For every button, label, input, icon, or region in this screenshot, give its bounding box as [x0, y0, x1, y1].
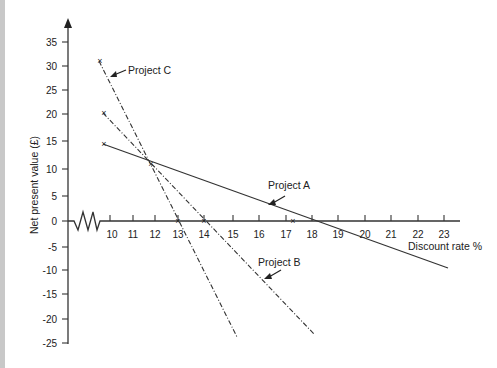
svg-text:17: 17 — [280, 229, 292, 240]
data-point-markers: × × × × × × × — [97, 56, 295, 226]
label-project-c: Project C — [128, 64, 172, 76]
x-ticks — [110, 215, 444, 221]
svg-text:21: 21 — [385, 229, 397, 240]
svg-text:×: × — [290, 216, 295, 226]
svg-text:22: 22 — [412, 229, 424, 240]
svg-text:12: 12 — [149, 229, 161, 240]
x-tick-labels: 10 11 12 13 14 15 16 17 18 19 20 21 22 2… — [106, 229, 450, 240]
svg-text:18: 18 — [306, 229, 318, 240]
svg-text:25: 25 — [46, 85, 58, 96]
x-axis-label: Discount rate % — [408, 240, 482, 252]
svg-text:×: × — [97, 56, 102, 66]
y-axis-arrow-icon — [64, 18, 72, 28]
series-project-b — [103, 113, 314, 334]
svg-text:30: 30 — [46, 61, 58, 72]
svg-text:0: 0 — [51, 216, 57, 227]
svg-text:19: 19 — [332, 229, 344, 240]
svg-text:×: × — [148, 159, 153, 169]
svg-text:35: 35 — [46, 37, 58, 48]
svg-text:13: 13 — [172, 229, 184, 240]
series-project-c — [99, 61, 237, 337]
svg-text:-10: -10 — [43, 265, 58, 276]
svg-text:10: 10 — [46, 164, 58, 175]
y-ticks — [62, 42, 68, 343]
npv-chart: 35 30 25 20 15 10 5 0 -5 -10 -15 -20 -25… — [0, 0, 497, 368]
svg-text:20: 20 — [46, 109, 58, 120]
svg-text:11: 11 — [128, 229, 139, 240]
label-project-a: Project A — [268, 179, 310, 191]
svg-text:×: × — [175, 216, 180, 226]
svg-text:15: 15 — [227, 229, 239, 240]
label-project-b: Project B — [258, 256, 301, 268]
svg-text:-25: -25 — [43, 338, 58, 349]
svg-text:16: 16 — [253, 229, 265, 240]
y-tick-labels: 35 30 25 20 15 10 5 0 -5 -10 -15 -20 -25 — [43, 37, 58, 349]
svg-text:×: × — [201, 216, 206, 226]
series-project-a — [103, 144, 448, 268]
svg-text:5: 5 — [51, 191, 57, 202]
svg-text:10: 10 — [106, 229, 118, 240]
svg-text:×: × — [101, 139, 106, 149]
svg-text:-20: -20 — [43, 314, 58, 325]
svg-text:14: 14 — [198, 229, 210, 240]
svg-text:-5: -5 — [48, 242, 57, 253]
svg-text:23: 23 — [438, 229, 450, 240]
y-axis-label: Net present value (£) — [28, 136, 40, 234]
x-axis — [68, 212, 460, 230]
svg-text:15: 15 — [46, 136, 58, 147]
svg-text:×: × — [101, 108, 106, 118]
svg-text:-15: -15 — [43, 289, 58, 300]
